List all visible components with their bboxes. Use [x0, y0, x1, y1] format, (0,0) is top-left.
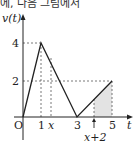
y-axis-arrow-icon — [21, 14, 26, 20]
x-tick-x-plus-2: x+2 — [84, 131, 106, 144]
velocity-graph: v(t) 4 2 O 1 x 3 x+2 5 t — [0, 0, 137, 144]
x-axis-label: t — [127, 119, 132, 132]
x-tick-3: 3 — [74, 119, 81, 132]
y-axis-label: v(t) — [2, 12, 21, 25]
pointer-arrow-icon — [92, 118, 96, 122]
x-tick-x: x — [48, 119, 55, 132]
x-tick-5: 5 — [109, 119, 116, 132]
x-tick-1: 1 — [38, 119, 45, 132]
origin-label: O — [14, 119, 23, 132]
shaded-area — [94, 81, 112, 117]
y-tick-4: 4 — [12, 37, 19, 50]
y-tick-2: 2 — [12, 75, 19, 88]
